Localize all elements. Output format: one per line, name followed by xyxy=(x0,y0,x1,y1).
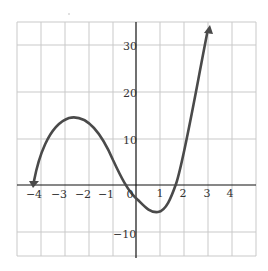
x-tick-label: 1 xyxy=(157,187,164,200)
x-tick-label: −1 xyxy=(98,188,114,201)
x-tick-label: 2 xyxy=(180,187,187,200)
y-tick-labels: 30 20 10 −10 xyxy=(113,40,137,241)
x-tick-label: 3 xyxy=(204,187,211,200)
x-tick-label: 4 xyxy=(227,187,234,200)
x-tick-labels: −4 −3 −2 −1 0 1 2 3 4 xyxy=(26,187,234,201)
x-tick-label: −4 xyxy=(26,188,42,201)
x-tick-label: −3 xyxy=(51,188,67,201)
y-tick-label: −10 xyxy=(113,228,136,241)
x-tick-label: 0 xyxy=(127,188,134,201)
x-tick-label: −2 xyxy=(75,188,91,201)
function-graph: −4 −3 −2 −1 0 1 2 3 4 30 20 10 −10 xyxy=(0,0,268,271)
y-tick-label: 30 xyxy=(123,40,137,53)
y-tick-label: 10 xyxy=(123,134,137,147)
y-tick-label: 20 xyxy=(123,87,137,100)
paper-speck xyxy=(68,13,70,15)
